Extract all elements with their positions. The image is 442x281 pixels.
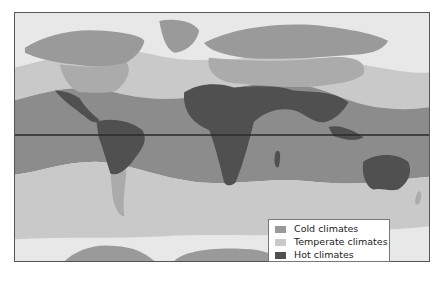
legend-item-temperate: Temperate climates (275, 236, 389, 248)
map-legend: Cold climates Temperate climates Hot cli… (268, 219, 390, 262)
legend-item-cold: Cold climates (275, 223, 389, 235)
land-eurasia-temperate (208, 57, 364, 87)
temperate-swatch-icon (275, 239, 286, 246)
land-australia (363, 155, 410, 190)
hot-swatch-icon (275, 252, 286, 259)
cold-swatch-icon (275, 226, 286, 233)
legend-item-hot: Hot climates (275, 249, 389, 261)
legend-label-temperate: Temperate climates (294, 236, 388, 248)
legend-label-cold: Cold climates (294, 223, 358, 235)
legend-label-hot: Hot climates (294, 249, 354, 261)
